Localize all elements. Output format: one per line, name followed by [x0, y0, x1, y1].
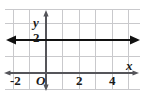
graph-screenshot: y 2 O -2 2 4 x — [0, 0, 146, 96]
x-axis — [4, 70, 139, 75]
x-axis-label: x — [126, 59, 133, 72]
origin-label: O — [36, 74, 45, 87]
coordinate-plane — [0, 0, 146, 96]
x-tick-label-minus-2: -2 — [10, 74, 21, 87]
x-tick-label-4: 4 — [109, 74, 116, 87]
x-tick-label-2: 2 — [76, 74, 83, 87]
plotted-line-y-equals-2 — [6, 36, 140, 45]
y-axis-label: y — [33, 16, 39, 29]
horizontal-gridlines — [5, 9, 140, 90]
y-tick-label-2: 2 — [33, 31, 40, 44]
